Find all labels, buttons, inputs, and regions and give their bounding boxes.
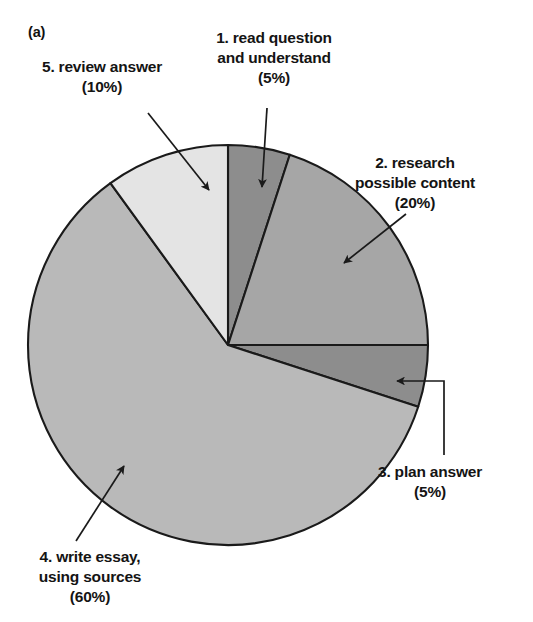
panel-letter: (a) [28,24,45,40]
pie-label-read-question: 1. read question and understand (5%) [204,28,344,88]
pie-label-plan-answer: 3. plan answer (5%) [350,462,510,502]
pie-chart-figure: (a) 1. read question and understand (5%)… [0,0,533,622]
pie-label-review-answer: 5. review answer (10%) [22,57,182,97]
pie-label-research-content: 2. research possible content (20%) [330,153,500,213]
pie-label-write-essay: 4. write essay, using sources (60%) [10,547,170,607]
